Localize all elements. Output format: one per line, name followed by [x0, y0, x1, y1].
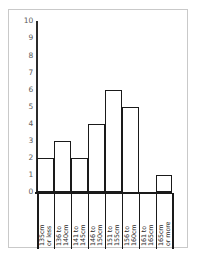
y-tick-label-10: 10 — [19, 17, 33, 25]
x-tick-label-2: 141 to 145cm — [73, 196, 88, 246]
y-tick-label-4: 4 — [19, 120, 33, 128]
y-tick-label-6: 6 — [19, 86, 33, 94]
bar-5 — [122, 107, 139, 193]
bar-7 — [156, 175, 173, 192]
y-tick-label-3: 3 — [19, 137, 33, 145]
bar-4 — [105, 90, 122, 193]
y-tick-label-8: 8 — [19, 52, 33, 60]
bar-1 — [54, 141, 71, 192]
x-tick-label-7: 165cm or more — [158, 196, 173, 246]
y-tick-label-5: 5 — [19, 103, 33, 111]
x-tick-label-5: 156 to 160cm — [124, 196, 139, 246]
y-tick-label-1: 1 — [19, 171, 33, 179]
x-tick-label-3: 146 to 150cm — [90, 196, 105, 246]
y-tick-label-0: 0 — [19, 188, 33, 196]
y-tick-label-7: 7 — [19, 69, 33, 77]
bar-2 — [71, 158, 88, 192]
histogram-chart: 109876543210 135cm or less136 to 140cm14… — [0, 0, 197, 259]
x-tick-label-0: 135cm or less — [39, 196, 54, 246]
bar-3 — [88, 124, 105, 192]
x-tick-label-6: 161 to 165cm — [141, 196, 156, 246]
x-tick-label-1: 136 to 140cm — [56, 196, 71, 246]
x-tick-label-4: 151 to 155cm — [107, 196, 122, 246]
y-tick-label-9: 9 — [19, 34, 33, 42]
bar-0 — [37, 158, 54, 192]
y-tick-label-2: 2 — [19, 154, 33, 162]
